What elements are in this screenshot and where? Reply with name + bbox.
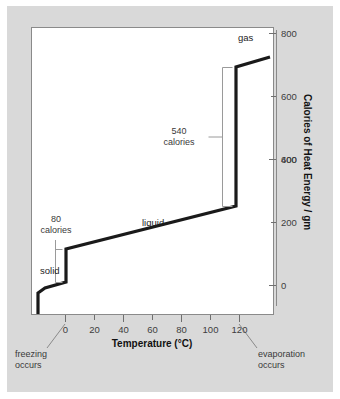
evaporation-annotation: evaporation occurs xyxy=(258,349,305,371)
phase-label-liquid: liquid xyxy=(142,218,164,228)
figure-panel: solid liquid gas 80 calories 540 calorie… xyxy=(7,6,333,392)
y-tick-label-0: 0 xyxy=(281,280,286,291)
phase-label-solid: solid xyxy=(40,266,60,276)
y-tick-label-400: 400 xyxy=(281,154,297,165)
freezing-annotation-line2: occurs xyxy=(15,360,47,371)
x-tick-label-40: 40 xyxy=(111,324,136,335)
y-tick-label-600: 600 xyxy=(281,91,297,102)
y-tick-800: 800 xyxy=(281,28,297,39)
vaporization-value: 540 xyxy=(152,126,206,137)
vaporization-bracket-label: 540 calories xyxy=(152,126,206,148)
fusion-bracket-label: 80 calories xyxy=(32,214,80,236)
x-tick-label-0: 0 xyxy=(53,324,78,335)
vaporization-bracket xyxy=(223,68,233,207)
heating-curve-svg xyxy=(32,28,273,314)
fusion-unit: calories xyxy=(32,225,80,236)
x-tick-label-20: 20 xyxy=(82,324,107,335)
freezing-annotation-line1: freezing xyxy=(15,349,47,360)
plot-area: solid liquid gas 80 calories 540 calorie… xyxy=(31,27,274,315)
x-tick-label-60: 60 xyxy=(140,324,165,335)
evaporation-annotation-line1: evaporation xyxy=(258,349,305,360)
vaporization-unit: calories xyxy=(152,137,206,148)
x-tick-label-100: 100 xyxy=(198,324,223,335)
phase-label-gas: gas xyxy=(238,33,253,43)
heating-curve-path xyxy=(38,57,270,314)
y-axis-title: Calories of Heat Energy / gm xyxy=(302,94,313,230)
evaporation-annotation-line2: occurs xyxy=(258,360,305,371)
x-tick-label-120: 120 xyxy=(227,324,252,335)
fusion-value: 80 xyxy=(32,214,80,225)
x-tick-label-80: 80 xyxy=(169,324,194,335)
y-tick-label-200: 200 xyxy=(281,217,297,228)
freezing-annotation: freezing occurs xyxy=(15,349,47,371)
x-axis-title: Temperature (°C) xyxy=(102,338,202,349)
x-tick-marks xyxy=(66,315,240,322)
